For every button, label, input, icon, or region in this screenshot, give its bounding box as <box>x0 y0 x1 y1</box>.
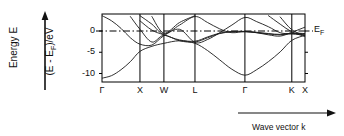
k-point-label: L <box>187 85 203 95</box>
wavevector-axis-arrow <box>238 110 336 117</box>
band-structure-plot <box>0 0 344 136</box>
k-point-label: X <box>297 85 313 95</box>
k-point-label: X <box>132 85 148 95</box>
y-tick-label: -5 <box>75 46 95 56</box>
k-point-label: Γ <box>237 85 253 95</box>
y-tick-label: 0 <box>75 25 95 35</box>
band-curves <box>102 16 305 78</box>
band-structure-figure: Energy E (E - EF)/eV EF Wave vector k 0-… <box>0 0 344 136</box>
energy-axis-arrow <box>42 11 49 90</box>
k-point-label: Γ <box>94 85 110 95</box>
y-tick-label: -10 <box>75 68 95 78</box>
k-point-label: W <box>156 85 172 95</box>
